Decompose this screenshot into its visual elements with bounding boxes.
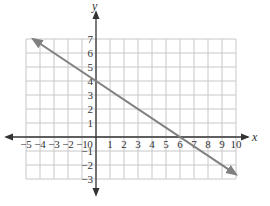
y-axis-label: y xyxy=(91,0,98,13)
y-tick-label: 3 xyxy=(88,89,94,101)
coordinate-plane: xy −5−4−3−2−1012345678910−3−2−11234567 xyxy=(0,0,270,206)
grid xyxy=(26,39,236,179)
x-tick-label: −4 xyxy=(34,138,46,150)
x-tick-label: 6 xyxy=(177,138,183,150)
x-tick-label: −3 xyxy=(48,138,60,150)
x-tick-label: 4 xyxy=(149,138,155,150)
y-tick-label: −2 xyxy=(81,159,93,171)
y-tick-label: 6 xyxy=(88,47,94,59)
x-tick-label: 9 xyxy=(219,138,225,150)
x-tick-label: 5 xyxy=(163,138,169,150)
y-tick-label: 5 xyxy=(88,61,94,73)
x-tick-label: 1 xyxy=(107,138,113,150)
data-line xyxy=(33,39,236,174)
x-tick-label: 8 xyxy=(205,138,211,150)
y-tick-label: −1 xyxy=(81,145,93,157)
x-axis-label: x xyxy=(251,130,258,144)
series-line xyxy=(33,39,236,174)
axes: xy xyxy=(6,0,258,195)
y-tick-label: 2 xyxy=(88,103,94,115)
y-tick-label: 1 xyxy=(88,117,94,129)
y-tick-label: −3 xyxy=(81,173,93,185)
x-tick-label: −2 xyxy=(62,138,74,150)
x-tick-label: 10 xyxy=(231,138,243,150)
x-tick-label: 3 xyxy=(135,138,141,150)
y-tick-label: 7 xyxy=(88,33,94,45)
x-tick-label: −5 xyxy=(20,138,32,150)
x-tick-label: 2 xyxy=(121,138,127,150)
